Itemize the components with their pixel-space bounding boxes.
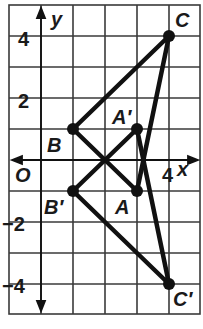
x-axis-right-arrow-icon	[188, 156, 198, 164]
label-c: C	[175, 9, 190, 31]
x-axis-left-arrow-icon	[12, 156, 22, 164]
label-a-prime: A′	[111, 106, 132, 128]
x-axis-label: x	[176, 158, 189, 180]
y-axis-up-arrow-icon	[37, 8, 45, 18]
y-tick-neg-2: −2	[2, 213, 25, 235]
label-c-prime: C′	[173, 288, 193, 310]
point-a	[131, 185, 143, 197]
y-axis-down-arrow-icon	[37, 301, 45, 311]
y-tick-4: 4	[18, 28, 30, 50]
coordinate-plane: y x O 4 2 −2 −4 4 C B A′ A B′ C′	[0, 0, 203, 329]
y-tick-2: 2	[18, 90, 29, 112]
y-tick-neg-4: −4	[2, 275, 26, 297]
label-b: B	[47, 134, 61, 156]
point-c	[163, 30, 175, 42]
origin-label: O	[15, 164, 31, 186]
point-b-prime	[67, 185, 79, 197]
x-tick-4: 4	[162, 164, 174, 186]
point-b	[67, 123, 79, 135]
point-a-prime	[131, 123, 143, 135]
label-b-prime: B′	[44, 196, 64, 218]
y-axis-label: y	[50, 8, 63, 30]
label-a: A	[114, 196, 129, 218]
